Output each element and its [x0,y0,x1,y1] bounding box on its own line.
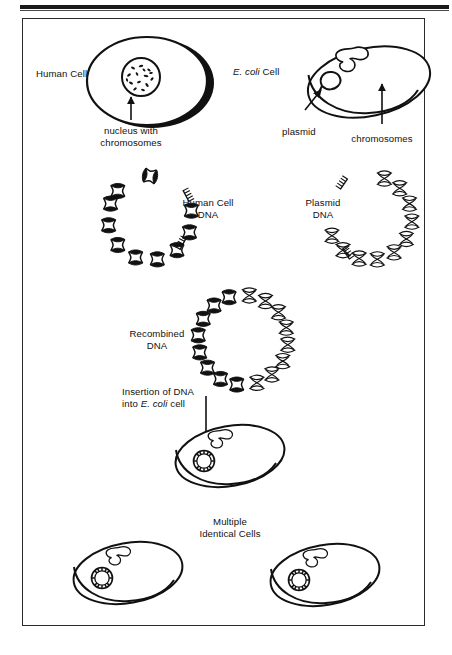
label-chromosomes: chromosomes [342,133,422,145]
label-ecoli-cell: E. coli Cell [233,66,280,78]
identical-cell-right [266,536,385,614]
label-human-dna-line2: DNA [165,209,251,221]
label-human-cell: Human Cell [36,68,87,80]
label-nucleus-line1: nucleus with [76,125,186,137]
label-plasmid-dna-line2: DNA [289,209,357,221]
label-insertion-pre: into [122,398,141,409]
label-nucleus-line2: chromosomes [76,137,186,149]
label-human-dna-line1: Human Cell [165,197,251,209]
label-insertion-post: cell [167,398,185,409]
human-cell-illustration [87,37,214,128]
label-ecoli-cell-rest: Cell [260,66,280,77]
recombinant-dna-figure: Human Cell E. coli Cell nucleus with chr… [0,0,452,655]
label-insertion-line1: Insertion of DNA [122,386,194,398]
label-insertion-line2: into E. coli cell [122,398,185,410]
nucleus [122,58,160,96]
label-multiple-line2: Identical Cells [181,528,279,540]
identical-cell-left [69,534,188,612]
daughter-plasmid-right [289,570,310,591]
ecoli-cell-illustration [301,36,436,128]
daughter-plasmid-left [92,568,113,589]
inserted-recombined-dna [194,451,215,472]
label-plasmid: plasmid [282,126,316,138]
label-recombined-line2: DNA [118,340,196,352]
label-insertion-italic: E. coli [141,398,168,409]
recipient-ecoli-cell [171,417,290,495]
label-multiple-line1: Multiple [181,516,279,528]
label-plasmid-dna-line1: Plasmid [289,197,357,209]
recombined-dna-ring [191,288,295,392]
diagram-canvas [0,0,452,655]
label-recombined-line1: Recombined [118,328,196,340]
label-ecoli-cell-italic: E. coli [233,66,260,77]
